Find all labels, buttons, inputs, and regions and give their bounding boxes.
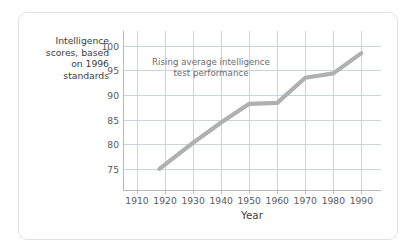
chart-annotation-line-1: Rising average intelligence [137,57,285,68]
x-tick-label-1930: 1930 [181,195,204,206]
x-tick-mark-1950 [249,191,250,194]
x-tick-label-1960: 1960 [266,195,289,206]
x-tick-mark-1960 [277,191,278,194]
x-tick-mark-1920 [165,191,166,194]
x-tick-label-1940: 1940 [209,195,232,206]
y-axis-title-line-3: on 1996 [23,58,109,70]
y-tick-label-85: 85 [107,114,119,125]
chart-annotation-line-2: test performance [137,68,285,79]
x-tick-mark-1930 [193,191,194,194]
series-line-chart [123,31,381,191]
figure-card: Intelligence scores, based on 1996 stand… [18,12,398,240]
chart-annotation: Rising average intelligence test perform… [137,57,285,79]
x-tick-label-1990: 1990 [350,195,373,206]
y-axis-title: Intelligence scores, based on 1996 stand… [23,35,109,81]
x-tick-mark-1970 [305,191,306,194]
x-tick-mark-1940 [221,191,222,194]
y-tick-label-80: 80 [107,139,119,150]
x-tick-label-1980: 1980 [322,195,345,206]
y-tick-label-75: 75 [107,163,119,174]
y-axis-title-line-1: Intelligence [23,35,109,47]
x-axis-title: Year [123,209,381,221]
x-tick-label-1910: 1910 [125,195,148,206]
x-tick-mark-1990 [361,191,362,194]
x-tick-label-1920: 1920 [153,195,176,206]
y-axis-title-line-4: standards [23,70,109,82]
y-tick-label-95: 95 [107,65,119,76]
x-tick-label-1970: 1970 [294,195,317,206]
y-axis-title-line-2: scores, based [23,47,109,59]
x-tick-mark-1980 [333,191,334,194]
x-tick-mark-1910 [137,191,138,194]
y-tick-label-90: 90 [107,90,119,101]
plot-area: 7580859095100 19101920193019401950196019… [123,31,381,191]
y-tick-label-100: 100 [101,40,119,51]
x-tick-label-1950: 1950 [237,195,260,206]
